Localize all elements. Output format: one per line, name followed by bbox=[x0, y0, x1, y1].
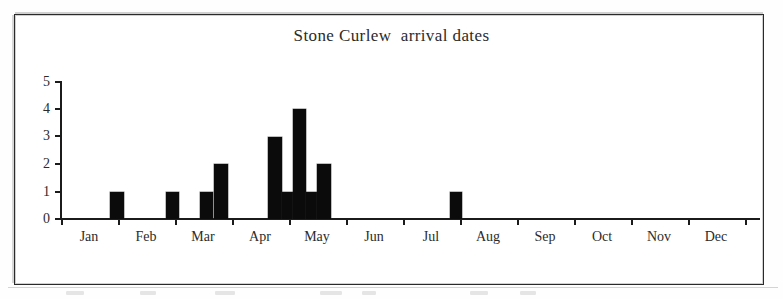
x-axis-tick-sep bbox=[517, 220, 519, 225]
x-axis-tick-dec bbox=[688, 220, 690, 225]
x-axis-label-oct: Oct bbox=[576, 229, 628, 245]
y-axis-label-5: 5 bbox=[28, 74, 50, 90]
scan-smudge bbox=[470, 291, 488, 295]
x-axis-label-dec: Dec bbox=[690, 229, 742, 245]
bar-5 bbox=[282, 192, 293, 219]
x-axis-label-feb: Feb bbox=[120, 229, 172, 245]
x-axis-tick-aug bbox=[460, 220, 462, 225]
scan-smudge bbox=[66, 291, 84, 295]
bar-6 bbox=[293, 109, 306, 219]
y-axis-line bbox=[60, 81, 62, 220]
x-axis-label-aug: Aug bbox=[462, 229, 514, 245]
x-axis-tick-nov bbox=[631, 220, 633, 225]
x-axis-tick-end bbox=[745, 220, 747, 225]
x-axis-tick-jun bbox=[346, 220, 348, 225]
bar-4 bbox=[268, 137, 282, 219]
bar-1 bbox=[166, 192, 179, 219]
y-axis-tick-4 bbox=[55, 108, 61, 110]
x-axis-label-mar: Mar bbox=[177, 229, 229, 245]
bar-9 bbox=[450, 192, 462, 219]
x-axis-label-jun: Jun bbox=[348, 229, 400, 245]
x-axis-label-may: May bbox=[291, 229, 343, 245]
bar-2 bbox=[200, 192, 213, 219]
bar-7 bbox=[306, 192, 317, 219]
y-axis-tick-2 bbox=[55, 163, 61, 165]
y-axis-tick-1 bbox=[55, 191, 61, 193]
x-axis-label-nov: Nov bbox=[633, 229, 685, 245]
scan-smudge bbox=[520, 291, 536, 295]
x-axis-tick-apr bbox=[232, 220, 234, 225]
bar-8 bbox=[317, 164, 331, 219]
scan-smudge bbox=[362, 291, 376, 295]
chart-title: Stone Curlew arrival dates bbox=[0, 26, 783, 46]
scan-smudge bbox=[320, 291, 342, 295]
y-axis-label-3: 3 bbox=[28, 128, 50, 144]
x-axis-tick-jul bbox=[403, 220, 405, 225]
x-axis-label-jan: Jan bbox=[63, 229, 115, 245]
x-axis-label-jul: Jul bbox=[405, 229, 457, 245]
scan-smudge bbox=[140, 291, 156, 295]
y-axis-label-2: 2 bbox=[28, 156, 50, 172]
bar-3 bbox=[214, 164, 228, 219]
x-axis-tick-oct bbox=[574, 220, 576, 225]
x-axis-tick-mar bbox=[175, 220, 177, 225]
x-axis-tick-jan bbox=[61, 220, 63, 225]
x-axis-label-apr: Apr bbox=[234, 229, 286, 245]
scan-artifact-line bbox=[8, 287, 778, 288]
x-axis-tick-may bbox=[289, 220, 291, 225]
y-axis-tick-3 bbox=[55, 135, 61, 137]
x-axis-label-sep: Sep bbox=[519, 229, 571, 245]
chart-screenshot: Stone Curlew arrival dates 5 4 3 2 1 0 J… bbox=[0, 0, 783, 299]
y-axis-label-1: 1 bbox=[28, 184, 50, 200]
bar-0 bbox=[110, 192, 124, 219]
y-axis-label-0: 0 bbox=[28, 211, 50, 227]
y-axis-tick-5 bbox=[55, 81, 61, 83]
x-axis-line bbox=[55, 218, 760, 220]
x-axis-tick-feb bbox=[118, 220, 120, 225]
scan-smudge bbox=[215, 291, 235, 295]
y-axis-label-4: 4 bbox=[28, 101, 50, 117]
